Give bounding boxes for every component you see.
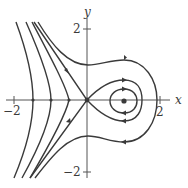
center-point (121, 98, 126, 103)
phase-portrait-figure: y x 2 −2 −2 2 (0, 0, 188, 188)
x-axis-label: x (175, 94, 182, 106)
marker-point (31, 98, 34, 101)
arrow-icon (121, 111, 126, 116)
y-tick-label-neg2: −2 (63, 166, 81, 178)
marker-point (49, 98, 52, 101)
arrow-icon (121, 119, 126, 124)
x-tick-label-neg2: −2 (3, 105, 21, 117)
y-axis-label: y (84, 6, 91, 18)
y-tick-label-2: 2 (73, 23, 81, 35)
phase-portrait-plot (0, 0, 188, 188)
arrow-icon (121, 140, 126, 145)
arrow-icon (64, 68, 69, 74)
marker-point (67, 98, 70, 101)
saddle-point (85, 98, 90, 103)
arrow-icon (66, 118, 71, 123)
arrow-icon (122, 87, 127, 92)
arrow-icon (122, 78, 127, 83)
arrow-icon (124, 55, 127, 60)
x-tick-label-2: 2 (156, 106, 164, 118)
